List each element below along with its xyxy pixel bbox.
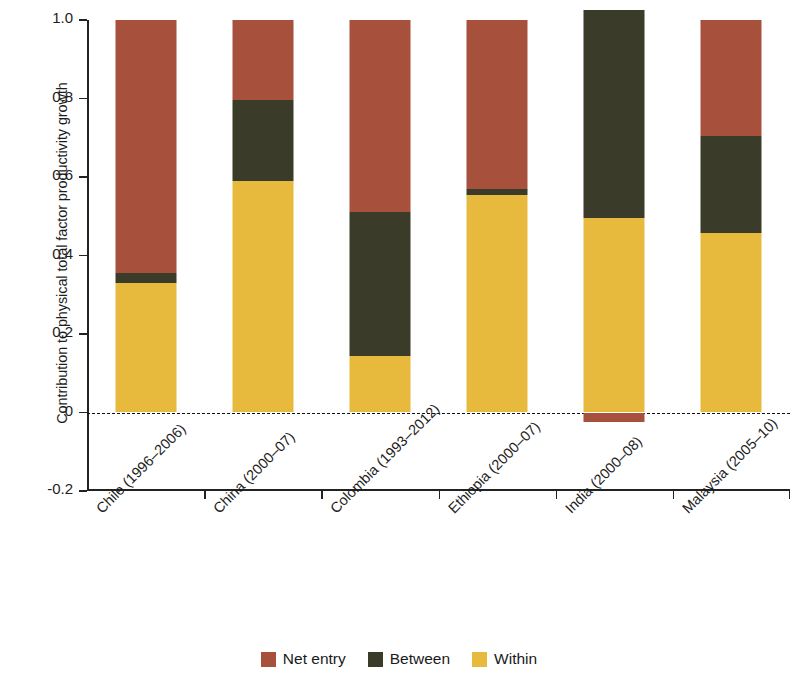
- x-tick: [789, 491, 790, 499]
- x-tick: [673, 491, 674, 499]
- y-tick-label: 0: [65, 402, 73, 419]
- y-tick: 0.6: [79, 176, 87, 178]
- legend-item[interactable]: Between: [368, 650, 450, 668]
- bar-segment-net-entry[interactable]: [701, 20, 762, 136]
- chart-figure: Contribution to physical total factor pr…: [0, 0, 798, 680]
- y-tick-label: 0.2: [52, 323, 73, 340]
- bar-group[interactable]: [439, 14, 556, 491]
- bar-segment-net-entry[interactable]: [232, 20, 293, 100]
- y-tick-label: -0.2: [47, 480, 73, 497]
- bar-segment-within[interactable]: [701, 233, 762, 412]
- bar-segment-between[interactable]: [349, 212, 410, 355]
- bar-segment-between[interactable]: [701, 136, 762, 233]
- x-tick: [321, 491, 322, 499]
- y-tick: 0.8: [79, 98, 87, 100]
- stacked-bar[interactable]: [584, 14, 645, 491]
- bar-group[interactable]: [204, 14, 321, 491]
- y-tick-label: 0.6: [52, 166, 73, 183]
- y-tick: -0.2: [79, 490, 87, 492]
- stacked-bar[interactable]: [115, 14, 176, 491]
- y-tick: 0: [79, 412, 87, 414]
- bar-segment-within[interactable]: [467, 195, 528, 412]
- legend-label: Within: [494, 650, 537, 668]
- legend-label: Net entry: [283, 650, 346, 668]
- stacked-bar[interactable]: [467, 14, 528, 491]
- y-tick-label: 1.0: [52, 9, 73, 26]
- bar-segment-within[interactable]: [232, 181, 293, 413]
- legend-swatch-icon: [261, 652, 276, 667]
- bar-segment-between[interactable]: [467, 189, 528, 195]
- stacked-bar[interactable]: [232, 14, 293, 491]
- stacked-bar[interactable]: [349, 14, 410, 491]
- bar-segment-net-entry[interactable]: [115, 20, 176, 273]
- bar-group[interactable]: [556, 14, 673, 491]
- bar-segment-between[interactable]: [232, 100, 293, 181]
- plot-area: 1.00.80.60.40.20-0.2: [87, 14, 790, 491]
- bar-segment-within[interactable]: [115, 283, 176, 413]
- stacked-bar[interactable]: [701, 14, 762, 491]
- bar-segment-net-entry[interactable]: [349, 20, 410, 212]
- y-tick-label: 0.8: [52, 88, 73, 105]
- bar-segment-between[interactable]: [115, 273, 176, 283]
- legend-item[interactable]: Within: [472, 650, 537, 668]
- bar-series-layer: [87, 14, 790, 491]
- x-tick: [556, 491, 557, 499]
- bar-group[interactable]: [87, 14, 204, 491]
- bar-segment-between[interactable]: [584, 10, 645, 218]
- legend-item[interactable]: Net entry: [261, 650, 346, 668]
- legend-label: Between: [390, 650, 450, 668]
- bar-segment-net-entry[interactable]: [584, 413, 645, 423]
- chart-legend: Net entryBetweenWithin: [0, 650, 798, 668]
- y-tick: 0.4: [79, 255, 87, 257]
- y-tick: 0.2: [79, 333, 87, 335]
- bar-segment-within[interactable]: [584, 218, 645, 412]
- y-tick-label: 0.4: [52, 245, 73, 262]
- legend-swatch-icon: [472, 652, 487, 667]
- bar-segment-within[interactable]: [349, 356, 410, 413]
- legend-swatch-icon: [368, 652, 383, 667]
- y-tick: 1.0: [79, 19, 87, 21]
- x-tick: [439, 491, 440, 499]
- bar-segment-net-entry[interactable]: [467, 20, 528, 189]
- x-tick: [204, 491, 205, 499]
